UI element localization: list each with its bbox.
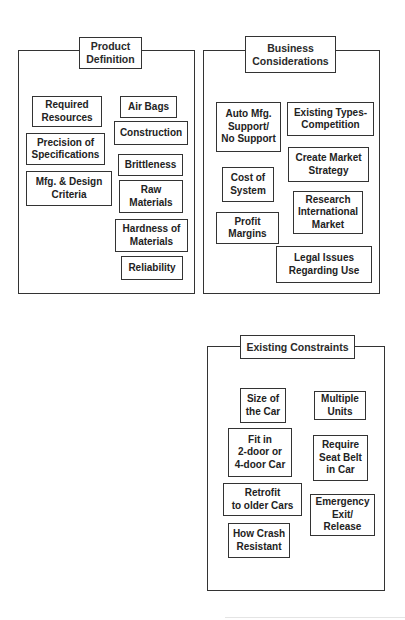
item-auto-mfg-support: Auto Mfg. Support/ No Support [216, 102, 281, 152]
item-mfg-design-criteria: Mfg. & Design Criteria [26, 171, 112, 206]
item-fit-in-car: Fit in 2-door or 4-door Car [228, 428, 292, 477]
item-existing-types-competition: Existing Types- Competition [287, 102, 374, 136]
existing-constraints-title: Existing Constraints [240, 335, 355, 359]
item-precision-of-specifications: Precision of Specifications [26, 133, 105, 165]
product-definition-title: Product Definition [79, 37, 142, 69]
item-air-bags: Air Bags [120, 96, 177, 118]
item-brittleness: Brittleness [118, 154, 183, 176]
item-reliability: Reliability [121, 256, 183, 280]
item-profit-margins: Profit Margins [216, 212, 279, 244]
item-construction: Construction [114, 121, 188, 145]
item-required-resources: Required Resources [32, 96, 102, 127]
item-research-international-market: Research International Market [293, 191, 363, 234]
business-considerations-title: Business Considerations [245, 36, 336, 73]
item-create-market-strategy: Create Market Strategy [288, 147, 369, 182]
item-emergency-exit-release: Emergency Exit/ Release [310, 494, 375, 536]
item-cost-of-system: Cost of System [222, 167, 274, 202]
item-hardness-of-materials: Hardness of Materials [115, 219, 188, 252]
page-edge-line [225, 617, 405, 618]
item-multiple-units: Multiple Units [314, 391, 366, 420]
item-how-crash-resistant: How Crash Resistant [228, 523, 290, 558]
item-size-of-the-car: Size of the Car [240, 388, 286, 423]
item-retrofit-older-cars: Retrofit to older Cars [223, 483, 302, 516]
item-require-seat-belt: Require Seat Belt in Car [313, 435, 368, 481]
item-legal-issues-regarding-use: Legal Issues Regarding Use [276, 246, 372, 283]
item-raw-materials: Raw Materials [119, 180, 183, 213]
